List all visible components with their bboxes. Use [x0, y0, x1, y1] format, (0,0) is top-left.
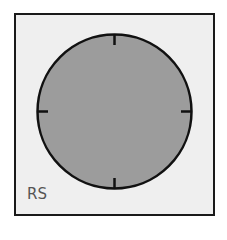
dial-disc — [38, 35, 192, 189]
panel-label: RS — [27, 185, 47, 203]
